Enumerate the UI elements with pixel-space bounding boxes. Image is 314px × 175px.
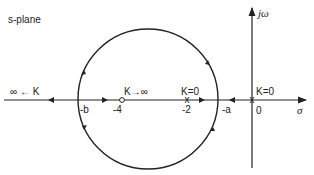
tick-label-a: -a (222, 104, 231, 115)
origin-label: 0 (256, 105, 262, 116)
arrow-icon (199, 97, 205, 103)
root-locus-diagram: x x s-plane jω σ 0 ∞ ← K K→∞ K=0 K=0 -b … (0, 0, 314, 175)
real-axis-label: σ (297, 104, 303, 116)
pole0-annotation: K=0 (256, 86, 275, 97)
tick-label-b: -b (80, 104, 89, 115)
arrow-icon (205, 60, 210, 65)
tick-label-4: -4 (113, 104, 122, 115)
zero-marker (120, 98, 125, 103)
pole-marker: x (250, 94, 255, 105)
imag-axis-label: jω (256, 7, 269, 19)
tick-label-2: -2 (182, 104, 191, 115)
arrow-icon (229, 97, 235, 103)
pole2-annotation: K=0 (181, 86, 200, 97)
s-plane-plot: x x s-plane jω σ 0 ∞ ← K K→∞ K=0 K=0 -b … (0, 0, 314, 175)
plane-title: s-plane (8, 14, 41, 25)
arrow-icon (102, 97, 108, 103)
arrow-icon (48, 97, 54, 103)
locus-circle (78, 29, 218, 169)
left-infinity-label: ∞ ← K (10, 86, 40, 97)
zero-annotation: K→∞ (124, 86, 148, 97)
